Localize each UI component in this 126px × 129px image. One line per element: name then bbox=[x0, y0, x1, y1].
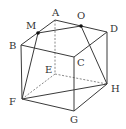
edge-GH bbox=[74, 84, 107, 111]
edge-BF bbox=[21, 45, 22, 99]
label-F: F bbox=[9, 96, 16, 107]
edge-MO bbox=[38, 26, 81, 33]
label-B: B bbox=[9, 40, 16, 51]
label-C: C bbox=[77, 57, 85, 68]
edge-FH bbox=[22, 84, 107, 99]
cube-diagram: A B C D E F G H M O bbox=[0, 0, 126, 129]
solid-edges bbox=[21, 20, 107, 111]
edge-FG bbox=[22, 99, 74, 111]
point-M-dot-icon bbox=[36, 31, 40, 35]
hidden-edge-EH bbox=[55, 74, 107, 84]
label-O: O bbox=[77, 10, 85, 21]
label-M: M bbox=[26, 20, 36, 31]
label-G: G bbox=[70, 114, 78, 125]
vertex-labels: A B C D E F G H M O bbox=[9, 7, 120, 125]
label-E: E bbox=[45, 64, 52, 75]
point-O-dot-icon bbox=[79, 24, 83, 28]
label-H: H bbox=[111, 83, 120, 94]
label-D: D bbox=[110, 23, 118, 34]
edge-BC bbox=[21, 45, 74, 57]
label-A: A bbox=[51, 7, 60, 18]
edge-CD bbox=[74, 32, 107, 57]
hidden-edges bbox=[22, 20, 107, 99]
